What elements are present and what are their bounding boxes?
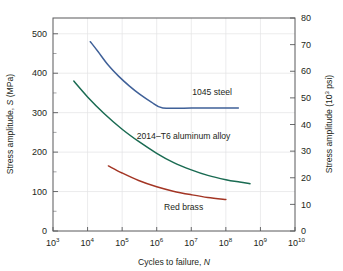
y-tick-label-right: 70 (301, 40, 311, 50)
y-axis-title-left: Stress amplitude, S (MPa) (5, 74, 15, 174)
gridlines (53, 18, 295, 231)
x-tick-label: 107 (184, 236, 198, 248)
y-tick-label-right: 30 (301, 146, 311, 156)
series-label: Red brass (164, 202, 203, 212)
y-tick-label-right: 50 (301, 93, 311, 103)
y-tick-label-right: 40 (301, 120, 311, 130)
y-tick-label-left: 0 (42, 226, 47, 236)
y-tick-label-right: 60 (301, 66, 311, 76)
y-tick-label-left: 400 (32, 68, 47, 78)
series-curve (108, 166, 225, 200)
y-tick-label-left: 300 (32, 108, 47, 118)
series-curve (90, 42, 238, 109)
axis-ticks (53, 18, 295, 231)
x-axis-title: Cycles to failure, N (138, 257, 211, 267)
data-series (74, 42, 250, 200)
y-tick-label-right: 20 (301, 173, 311, 183)
y-tick-label-left: 100 (32, 187, 47, 197)
x-tick-label: 109 (253, 236, 267, 248)
x-tick-label: 1010 (288, 236, 305, 248)
series-label: 2014–T6 aluminum alloy (137, 131, 231, 141)
y-tick-label-right: 10 (301, 200, 311, 210)
plot-frame (53, 18, 295, 231)
x-tick-label: 104 (81, 236, 95, 248)
series-label: 1045 steel (192, 87, 232, 97)
x-tick-label: 103 (46, 236, 60, 248)
y-axis-title-right: Stress amplitude (103 psi) (324, 75, 334, 174)
y-tick-label-right: 0 (301, 226, 306, 236)
x-tick-label: 108 (219, 236, 233, 248)
y-tick-label-left: 500 (32, 29, 47, 39)
y-tick-label-right: 80 (301, 13, 311, 23)
x-tick-label: 106 (150, 236, 164, 248)
x-tick-label: 105 (115, 236, 129, 248)
y-tick-label-left: 200 (32, 147, 47, 157)
chart-canvas: 1031041051061071081091010010020030040050… (0, 0, 343, 271)
sn-fatigue-curve-figure: 1031041051061071081091010010020030040050… (0, 0, 343, 271)
